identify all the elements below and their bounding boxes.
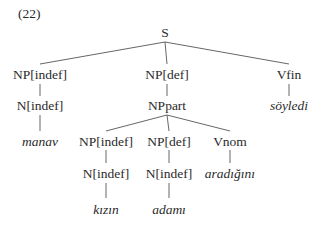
node-n-indef: N[indef] <box>17 98 63 114</box>
node-np-def-2: NP[def] <box>147 134 191 150</box>
node-s: S <box>161 25 169 41</box>
node-n-indef-3: N[indef] <box>146 166 192 182</box>
node-np-part: NPpart <box>148 98 186 114</box>
leaf-kizin: kızın <box>93 202 119 218</box>
leaf-adami: adamı <box>152 202 186 218</box>
node-np-def: NP[def] <box>145 67 189 83</box>
node-vfin: Vfin <box>277 67 302 83</box>
node-vnom: Vnom <box>213 134 247 150</box>
node-np-indef-2: NP[indef] <box>79 134 133 150</box>
node-np-indef: NP[indef] <box>13 67 67 83</box>
tree-edges <box>0 0 320 228</box>
leaf-aradigini: aradığını <box>205 166 255 182</box>
leaf-manav: manav <box>22 134 58 150</box>
node-n-indef-2: N[indef] <box>83 166 129 182</box>
leaf-soyledi: söyledi <box>270 98 308 114</box>
example-number: (22) <box>18 6 41 22</box>
